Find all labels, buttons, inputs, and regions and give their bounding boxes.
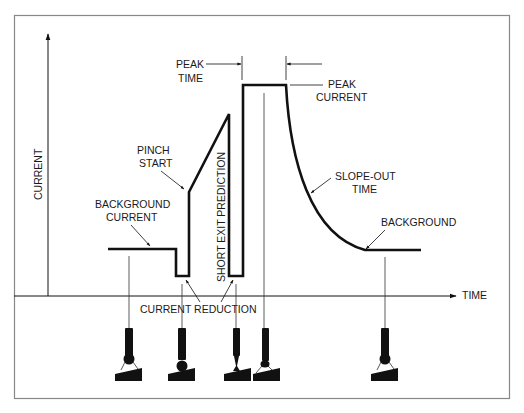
peak-time-label-1: PEAK [176, 58, 204, 70]
y-axis-label: CURRENT [32, 148, 44, 200]
background-current-label-1: BACKGROUND [95, 198, 171, 210]
short-exit-prediction-label: SHORT EXIT PREDICTION [215, 152, 227, 282]
peak-current-label-2: CURRENT [316, 91, 368, 103]
background-label: BACKGROUND [381, 216, 457, 228]
current-waveform-diagram: CURRENT TIME PEAK TIME PEAK CURRENT PINC… [0, 0, 524, 413]
x-axis-label: TIME [462, 289, 487, 301]
pinch-start-label-1: PINCH [137, 144, 170, 156]
current-reduction-label: CURRENT REDUCTION [140, 303, 256, 315]
peak-current-label-1: PEAK [328, 78, 356, 90]
background-current-label-2: CURRENT [106, 211, 158, 223]
pinch-start-label-2: START [139, 157, 173, 169]
peak-time-label-2: TIME [178, 72, 203, 84]
slope-out-label-2: TIME [352, 183, 377, 195]
slope-out-label-1: SLOPE-OUT [335, 170, 396, 182]
